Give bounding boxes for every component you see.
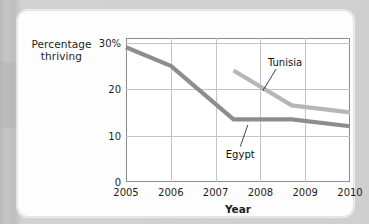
series-label-tunisia: Tunisia [268,57,302,68]
x-axis-tick-label: 2008 [248,187,273,198]
data-series-layer [126,38,350,182]
y-axis-tick-label: 30% [99,37,121,48]
y-axis-tick-label: 10 [108,130,121,141]
x-axis-tick-label: 2009 [292,187,317,198]
series-label-egypt: Egypt [226,149,255,160]
x-axis-tick-label: 2010 [337,187,362,198]
y-axis-title-line-1: Percentage [23,38,100,50]
y-axis-title-line-2: thriving [23,50,100,62]
y-axis-tick-label: 0 [115,177,121,188]
x-axis-tick-label: 2005 [113,187,138,198]
line-chart-figure: Percentage thriving 0102030%200520062007… [18,11,353,216]
x-axis-tick-label: 2006 [158,187,183,198]
plot-area: 0102030%200520062007200820092010 Tunisia… [109,27,350,183]
series-line-egypt [126,47,350,126]
figure-card: Percentage thriving 0102030%200520062007… [17,10,354,217]
series-line-tunisia [234,71,350,113]
x-axis-title: Year [126,203,350,215]
annotation-leader-line [240,125,248,147]
annotation-leader-line [263,69,276,91]
y-axis-title: Percentage thriving [23,38,100,62]
y-axis-tick-label: 20 [108,84,121,95]
x-axis-tick-label: 2007 [203,187,228,198]
